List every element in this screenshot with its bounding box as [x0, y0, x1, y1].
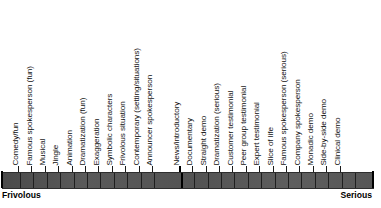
anchor-label-frivolous: Frivolous: [2, 190, 41, 200]
category-label: Dramatization (serious): [214, 83, 223, 166]
category-label: Slice of life: [267, 128, 276, 167]
category-label: Expert testimonial: [254, 103, 263, 166]
bar-tick: [301, 173, 302, 188]
category-label: Documentary: [187, 118, 196, 166]
bar-tick: [208, 173, 209, 188]
category-label-layer: Comedy/funFamous spokesperson (fun)Music…: [0, 0, 381, 166]
bar-tick: [127, 173, 128, 188]
bar-tick: [355, 173, 356, 188]
bar-tick: [221, 173, 222, 188]
bar-tick: [234, 173, 235, 188]
bar-tick: [74, 173, 75, 188]
bar-tick-layer: [2, 173, 374, 188]
category-label: Contemporary (setting/situations): [133, 48, 142, 166]
anchor-label-layer: Frivolous Serious: [0, 190, 381, 204]
bar-tick: [154, 173, 155, 188]
bar-tick: [100, 173, 101, 188]
category-label: Customer testimonial: [227, 91, 236, 166]
bar-tick: [87, 173, 88, 188]
bar-tick: [114, 173, 115, 188]
category-label: Side-by-side demo: [321, 99, 330, 166]
bar-tick: [328, 173, 329, 188]
scale-bar-right-end-cap: [372, 171, 374, 188]
bar-tick: [141, 173, 142, 188]
bar-tick: [315, 173, 316, 188]
bar-tick: [33, 173, 34, 188]
bar-tick: [342, 173, 343, 188]
category-label: Straight demo: [200, 116, 209, 166]
category-label: Jingle: [53, 145, 62, 166]
category-label: News/introductory: [173, 102, 182, 166]
scale-bar-left-end-cap: [1, 171, 3, 188]
anchor-label-serious: Serious: [340, 190, 372, 200]
category-label: Dramatization (fun): [80, 98, 89, 166]
scale-bar: [2, 172, 374, 189]
category-label: Peer group testimonial: [240, 86, 249, 166]
category-label: Monadic demo: [307, 114, 316, 167]
category-label: Company spokesperson: [294, 80, 303, 166]
category-label: Animation: [66, 130, 75, 166]
category-label: Frivolous situation: [120, 102, 129, 166]
category-label: Famous spokesperson (serious): [281, 52, 290, 166]
bar-tick: [248, 173, 249, 188]
bar-tick: [60, 173, 61, 188]
bar-tick: [20, 173, 21, 188]
category-label: Exaggeration: [93, 119, 102, 166]
bar-tick: [288, 173, 289, 188]
bar-tick: [47, 173, 48, 188]
category-label: Musical: [39, 139, 48, 166]
bar-tick: [275, 173, 276, 188]
category-label: Clinical demo: [334, 118, 343, 166]
category-label: Comedy/fun: [13, 123, 22, 166]
category-label: Symbolic characters: [106, 94, 115, 166]
bar-tick: [194, 173, 195, 188]
category-label: Announcer spokesperson: [147, 75, 156, 166]
bar-tick: [181, 173, 183, 188]
execution-style-scale-figure: Comedy/funFamous spokesperson (fun)Music…: [0, 0, 381, 208]
category-label: Famous spokesperson (fun): [26, 66, 35, 166]
bar-tick: [261, 173, 262, 188]
